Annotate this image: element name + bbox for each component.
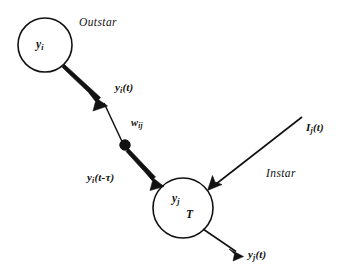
target-node-label: yj bbox=[172, 193, 180, 206]
source-node-label: yi bbox=[36, 39, 44, 52]
post-delay-signal-label: yi(t-τ) bbox=[87, 172, 114, 185]
outstar-segment-1-edge bbox=[62, 65, 122, 142]
outstar-region-label: Outstar bbox=[79, 17, 117, 29]
output-edge bbox=[203, 229, 244, 261]
output-edge-shaft bbox=[203, 229, 236, 252]
output-signal-label: yj(t) bbox=[248, 249, 266, 262]
outstar-segment-1-tail bbox=[104, 103, 122, 142]
instar-region-label: Instar bbox=[266, 168, 296, 180]
target-node-threshold-label: T bbox=[186, 209, 193, 221]
diagram-canvas: yi yj T Outstar Instar yi(t) wij yi(t-τ)… bbox=[0, 0, 344, 279]
instar-input-arrowhead bbox=[208, 176, 223, 191]
diagram-vector-layer bbox=[0, 0, 344, 279]
outstar-segment-1-shaft bbox=[62, 65, 101, 102]
pre-delay-signal-label: yi(t) bbox=[115, 82, 133, 95]
external-input-label: Ij(t) bbox=[306, 122, 324, 135]
outstar-segment-2-shaft bbox=[126, 149, 156, 181]
outstar-segment-2-edge bbox=[126, 149, 164, 191]
source-node-circle bbox=[18, 18, 72, 72]
weight-label: wij bbox=[131, 118, 143, 129]
